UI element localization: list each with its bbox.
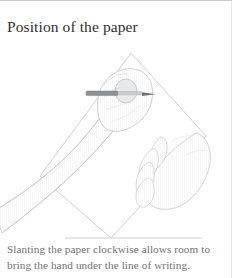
caption-line-2: bring the hand under the line of writing… <box>7 258 222 274</box>
illustration-figure <box>0 37 232 241</box>
caption-line-1: Slanting the paper clockwise allows room… <box>7 242 222 258</box>
illustration-svg <box>0 37 232 241</box>
pen-grip <box>118 92 142 95</box>
pen-barrel <box>86 91 118 96</box>
figure-page: Position of the paper <box>0 0 232 278</box>
figure-caption: Slanting the paper clockwise allows room… <box>7 242 222 273</box>
page-title: Position of the paper <box>7 17 138 37</box>
